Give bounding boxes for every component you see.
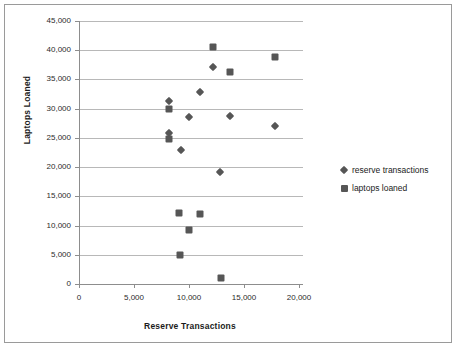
y-tick-label: 40,000 [25,45,71,54]
x-axis-tick [134,284,135,288]
x-tick-label: 0 [56,293,102,302]
diamond-marker-icon [340,166,348,174]
y-tick-label: 35,000 [25,74,71,83]
x-axis-tick [244,284,245,288]
chart-frame: Laptops Loaned Reserve Transactions 05,0… [4,4,452,343]
x-axis-tick [299,284,300,288]
y-axis-tick [75,50,79,51]
gridline-horizontal [79,50,303,51]
data-point-square [176,209,183,216]
y-tick-label: 0 [25,279,71,288]
square-marker-icon [341,185,348,192]
x-tick-label: 10,000 [166,293,212,302]
data-point-diamond [209,63,217,71]
y-tick-label: 10,000 [25,221,71,230]
chart-legend: reserve transactionslaptops loaned [341,161,429,197]
data-point-diamond [271,121,279,129]
y-tick-label: 45,000 [25,16,71,25]
legend-item-2[interactable]: laptops loaned [341,179,429,197]
data-point-diamond [225,112,233,120]
data-point-square [210,44,217,51]
y-axis-tick [75,109,79,110]
x-tick-label: 5,000 [111,293,157,302]
data-point-square [177,252,184,259]
data-point-square [166,105,173,112]
gridline-horizontal [79,255,303,256]
x-axis-tick [189,284,190,288]
data-point-diamond [165,96,173,104]
data-point-diamond [196,88,204,96]
legend-item-1[interactable]: reserve transactions [341,161,429,179]
gridline-horizontal [79,79,303,80]
x-axis-tick [79,284,80,288]
legend-label: laptops loaned [352,183,407,193]
data-point-square [226,69,233,76]
data-point-square [271,54,278,61]
y-tick-label: 25,000 [25,133,71,142]
data-point-diamond [216,168,224,176]
y-tick-label: 20,000 [25,162,71,171]
y-axis-tick [75,167,79,168]
y-tick-label: 15,000 [25,191,71,200]
y-axis-tick [75,79,79,80]
gridline-horizontal [79,138,303,139]
data-point-square [186,227,193,234]
gridline-horizontal [79,109,303,110]
gridline-horizontal [79,21,303,22]
legend-label: reserve transactions [352,165,429,175]
x-tick-label: 15,000 [221,293,267,302]
y-axis-tick [75,284,79,285]
y-axis-tick [75,138,79,139]
x-axis-title: Reserve Transactions [75,321,305,331]
data-point-square [197,210,204,217]
data-point-square [217,274,224,281]
gridline-horizontal [79,167,303,168]
data-point-diamond [177,146,185,154]
y-axis-tick [75,196,79,197]
y-tick-label: 30,000 [25,104,71,113]
data-point-square [166,135,173,142]
y-axis-line [79,21,80,285]
scatter-chart: Laptops Loaned Reserve Transactions 05,0… [5,5,453,344]
y-axis-tick [75,226,79,227]
y-tick-label: 5,000 [25,250,71,259]
y-axis-tick [75,255,79,256]
data-point-diamond [185,113,193,121]
x-tick-label: 20,000 [276,293,322,302]
y-axis-tick [75,21,79,22]
gridline-horizontal [79,284,303,285]
gridline-horizontal [79,196,303,197]
